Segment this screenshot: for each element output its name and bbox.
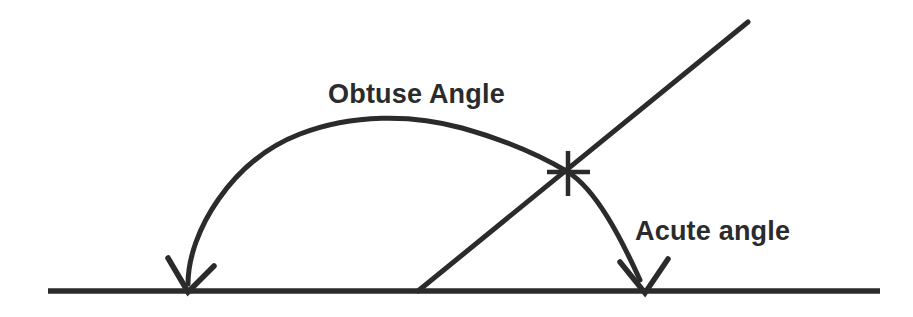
- obtuse-angle-label: Obtuse Angle: [328, 79, 505, 109]
- arrow-right-icon: [620, 259, 668, 293]
- angle-diagram: Obtuse Angle Acute angle: [0, 0, 913, 317]
- diagram-canvas: Obtuse Angle Acute angle: [0, 0, 913, 317]
- ray-line: [418, 22, 748, 291]
- acute-angle-label: Acute angle: [635, 216, 790, 246]
- obtuse-angle-arc: [188, 118, 640, 284]
